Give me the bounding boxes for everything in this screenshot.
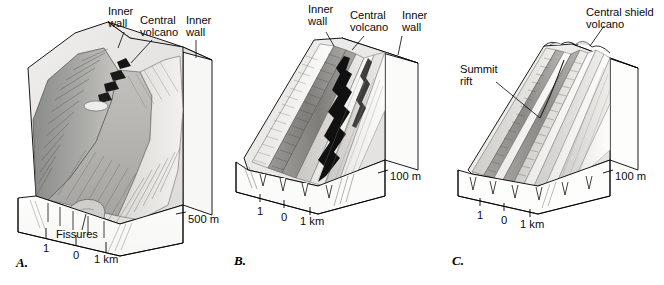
label-inner-wall-right-b: Inner wall [402,9,440,34]
label-central-volcano-a: Central volcano [140,14,188,39]
panel-letter-b: B. [234,253,246,269]
panel-c-drawing [438,0,664,285]
panel-letter-c: C. [452,253,464,269]
label-central-shield-volcano-c: Central shield volcano [586,6,660,31]
label-fissures-a: Fissures [56,228,98,240]
panel-letter-a: A. [16,255,28,271]
scale-right-a: 1 km [94,253,118,265]
scale-right-b: 1 km [300,215,324,227]
panel-a-drawing [0,0,228,285]
panel-c: Central shield volcano Summit rift 100 m… [438,0,664,285]
panel-b: Inner wall Central volcano Inner wall 10… [222,0,444,285]
block-a [18,22,212,256]
vertical-scale-c: 100 m [615,170,646,182]
scale-right-c: 1 km [520,218,544,230]
vertical-scale-a: 500 m [188,213,219,225]
scale-zero-c: 0 [501,214,507,226]
scale-left-a: 1 [43,242,49,254]
label-central-volcano-b: Central volcano [350,9,400,34]
label-summit-rift-c: Summit rift [460,63,508,88]
scale-left-c: 1 [477,209,483,221]
block-b [236,32,418,215]
scale-zero-b: 0 [281,211,287,223]
label-inner-wall-right-a: Inner wall [186,14,226,39]
vertical-scale-b: 100 m [390,170,421,182]
figure-container: Inner wall Central volcano Inner wall Fi… [0,0,664,285]
label-inner-wall-left-b: Inner wall [308,3,350,28]
block-c [458,26,638,217]
panel-b-drawing [222,0,444,285]
panel-a: Inner wall Central volcano Inner wall Fi… [0,0,228,285]
scale-left-b: 1 [257,205,263,217]
scale-zero-a: 0 [73,249,79,261]
